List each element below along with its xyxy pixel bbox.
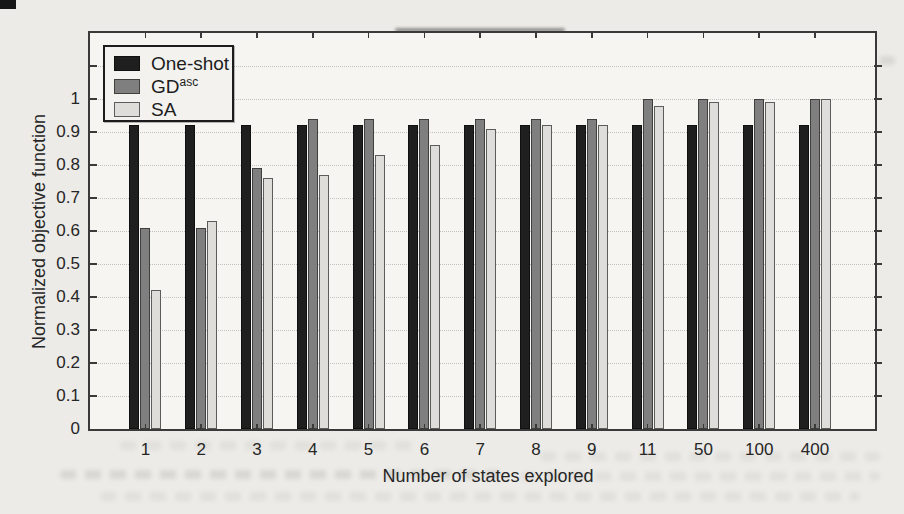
legend-item-gd: GDasc <box>114 75 232 98</box>
x-tick-label-1: 1 <box>117 440 173 460</box>
legend-item-one-shot: One-shot <box>114 52 232 75</box>
scanned-figure: 00.10.20.30.40.50.60.70.80.91 1234567891… <box>0 0 904 514</box>
bar-oneshot-50 <box>687 125 697 429</box>
y-tick <box>90 65 97 67</box>
x-tick <box>703 33 705 38</box>
y-tick <box>874 131 882 133</box>
legend: One-shotGDascSA <box>103 45 234 122</box>
y-tick <box>874 296 882 298</box>
bar-oneshot-4 <box>297 125 307 429</box>
x-tick-label-11: 11 <box>620 440 676 460</box>
bar-oneshot-100 <box>743 125 753 429</box>
x-tick <box>703 424 705 429</box>
x-tick-label-3: 3 <box>229 440 285 460</box>
y-tick <box>90 362 97 364</box>
bar-sa-3 <box>263 178 273 429</box>
bar-sa-5 <box>375 155 385 429</box>
x-tick <box>145 424 147 429</box>
bar-sa-50 <box>709 102 719 429</box>
y-tick <box>90 164 97 166</box>
bar-oneshot-7 <box>464 125 474 429</box>
x-tick-label-2: 2 <box>173 440 229 460</box>
x-tick <box>424 424 426 429</box>
bar-gdasc-6 <box>419 119 429 429</box>
legend-label: One-shot <box>151 54 229 73</box>
y-tick <box>874 164 882 166</box>
x-tick <box>479 424 481 429</box>
y-tick <box>90 230 97 232</box>
x-tick-label-6: 6 <box>396 440 452 460</box>
bar-oneshot-1 <box>129 125 139 429</box>
x-axis-title: Number of states explored <box>288 466 688 487</box>
y-tick <box>874 263 882 265</box>
bar-oneshot-8 <box>520 125 530 429</box>
bar-oneshot-5 <box>353 125 363 429</box>
scan-artifact <box>100 492 860 501</box>
y-tick <box>90 395 97 397</box>
x-tick-label-5: 5 <box>341 440 397 460</box>
y-axis-title: Normalized objective function <box>29 87 50 377</box>
bar-gdasc-50 <box>698 99 708 429</box>
x-tick <box>256 424 258 429</box>
bar-gdasc-100 <box>754 99 764 429</box>
bar-sa-11 <box>654 106 664 429</box>
bar-sa-100 <box>765 102 775 429</box>
bar-gdasc-3 <box>252 168 262 429</box>
bar-sa-8 <box>542 125 552 429</box>
bar-sa-7 <box>486 129 496 429</box>
legend-swatch <box>114 56 140 71</box>
y-tick <box>874 98 882 100</box>
bar-sa-1 <box>151 290 161 429</box>
y-tick <box>90 263 97 265</box>
x-tick <box>424 33 426 38</box>
legend-swatch <box>114 102 140 117</box>
bar-oneshot-3 <box>241 125 251 429</box>
bar-sa-9 <box>598 125 608 429</box>
bar-sa-2 <box>207 221 217 429</box>
x-tick <box>256 33 258 38</box>
y-tick <box>874 65 882 67</box>
bar-gdasc-4 <box>308 119 318 429</box>
y-tick <box>874 197 882 199</box>
bar-oneshot-6 <box>408 125 418 429</box>
y-tick <box>874 362 882 364</box>
y-tick <box>90 98 97 100</box>
x-tick-label-50: 50 <box>675 440 731 460</box>
x-tick <box>814 424 816 429</box>
x-tick <box>814 33 816 38</box>
x-tick-label-7: 7 <box>452 440 508 460</box>
y-tick <box>90 131 97 133</box>
y-tick <box>874 230 882 232</box>
x-tick <box>535 33 537 38</box>
bar-gdasc-7 <box>475 119 485 429</box>
bar-oneshot-11 <box>632 125 642 429</box>
bar-oneshot-2 <box>185 125 195 429</box>
x-tick <box>200 424 202 429</box>
x-tick <box>591 33 593 38</box>
x-tick <box>312 33 314 38</box>
x-tick <box>647 33 649 38</box>
scan-ink-mark <box>0 0 16 9</box>
bar-gdasc-1 <box>140 228 150 429</box>
bar-oneshot-9 <box>576 125 586 429</box>
x-tick <box>200 33 202 38</box>
x-tick-label-4: 4 <box>285 440 341 460</box>
y-tick-label: 0 <box>36 419 80 439</box>
y-tick <box>90 197 97 199</box>
x-tick-label-400: 400 <box>787 440 843 460</box>
bar-gdasc-400 <box>810 99 820 429</box>
x-tick-label-9: 9 <box>564 440 620 460</box>
x-tick <box>145 33 147 38</box>
y-tick <box>874 329 882 331</box>
y-tick <box>874 395 882 397</box>
legend-item-sa: SA <box>114 98 232 121</box>
x-tick <box>647 424 649 429</box>
x-tick <box>479 33 481 38</box>
bar-gdasc-2 <box>196 228 206 429</box>
x-tick <box>758 33 760 38</box>
legend-label: GDasc <box>151 76 198 96</box>
y-tick <box>90 329 97 331</box>
bar-gdasc-5 <box>364 119 374 429</box>
x-tick <box>758 424 760 429</box>
bar-sa-6 <box>430 145 440 429</box>
